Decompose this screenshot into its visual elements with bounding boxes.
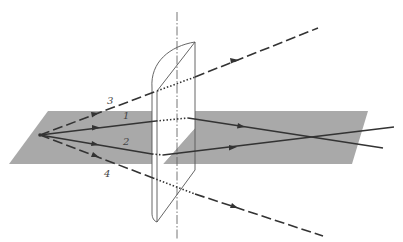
ray-4-label: 4 bbox=[103, 168, 110, 179]
lens-top-diagonal bbox=[157, 42, 195, 91]
lens-bottom-curve bbox=[152, 213, 157, 222]
lens-bottom-diagonal bbox=[157, 170, 195, 222]
ray-3-label: 3 bbox=[107, 95, 113, 106]
ray-2-label: 2 bbox=[122, 136, 129, 147]
ray-1-label: 1 bbox=[123, 110, 129, 121]
lens-front-curve bbox=[152, 42, 195, 88]
point-source bbox=[38, 133, 42, 137]
ray-4-arrow-right bbox=[230, 203, 238, 208]
cylindrical-lens-diagram: 3 1 2 4 bbox=[0, 0, 403, 242]
